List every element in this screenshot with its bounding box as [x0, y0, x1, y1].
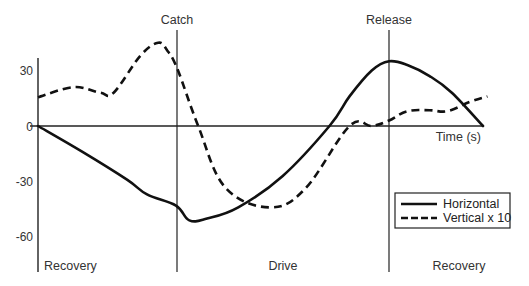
legend-label-horizontal: Horizontal: [443, 197, 499, 211]
legend-label-vertical: Vertical x 10: [443, 211, 511, 225]
y-tick-0: 0: [26, 120, 33, 134]
region-label-recovery-right: Recovery: [433, 259, 487, 273]
region-label-recovery-left: Recovery: [44, 259, 98, 273]
catch-label: Catch: [161, 13, 194, 27]
y-tick-neg30: -30: [16, 175, 34, 189]
stroke-force-chart: 30 0 -30 -60 Catch Release Recovery Driv…: [0, 0, 529, 286]
region-label-drive: Drive: [268, 259, 297, 273]
y-tick-neg60: -60: [16, 230, 34, 244]
series-vertical-line: [38, 43, 487, 208]
y-tick-30: 30: [20, 64, 34, 78]
release-label: Release: [366, 13, 412, 27]
x-axis-label: Time (s): [436, 130, 481, 144]
legend: Horizontal Vertical x 10: [395, 193, 511, 228]
